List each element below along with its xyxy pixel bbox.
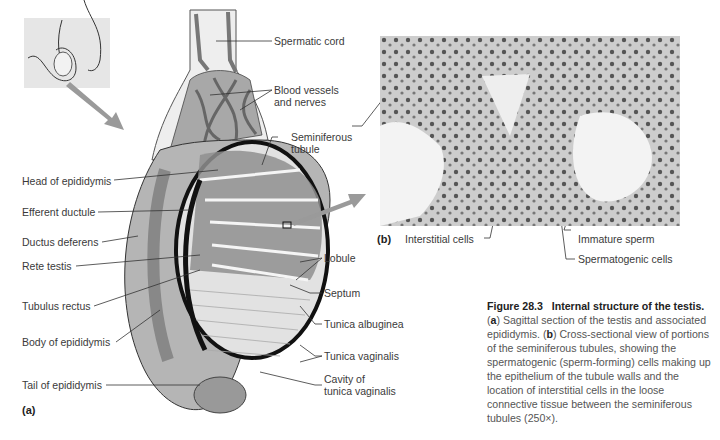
panel-b-tag: (b) (377, 233, 391, 245)
label-seminiferous: Seminiferous (291, 131, 352, 143)
figure-title: Internal structure of the testis. (552, 300, 704, 312)
figure-caption: Figure 28.3 Internal structure of the te… (487, 299, 712, 425)
caption-part-b: Cross-sectional view of portions of the … (487, 328, 711, 424)
label-rete-testis: Rete testis (22, 260, 72, 272)
label-body-of-epididymis: Body of epididymis (22, 336, 110, 348)
label-spermatogenic-cells: Spermatogenic cells (578, 253, 673, 265)
caption-part-b-tag: b (546, 328, 552, 340)
label-tubulus-rectus: Tubulus rectus (22, 300, 90, 312)
micrograph-seminiferous-tubules (380, 36, 680, 226)
label-tunica-vaginalis: Tunica vaginalis (324, 350, 399, 362)
figure-number: Figure 28.3 (487, 300, 543, 312)
panel-a-tag: (a) (22, 404, 35, 416)
pointer-arrow-icon (66, 82, 124, 130)
label-efferent-ductule: Efferent ductule (22, 206, 95, 218)
label-lobule: Lobule (324, 252, 356, 264)
label-interstitial-cells: Interstitial cells (405, 233, 474, 245)
label-immature-sperm: Immature sperm (578, 233, 654, 245)
caption-part-a-tag: a (491, 314, 497, 326)
label-tunica-albuginea: Tunica albuginea (324, 318, 404, 330)
label-tubule: tubule (291, 143, 320, 155)
label-tail-of-epididymis: Tail of epididymis (22, 379, 102, 391)
label-spermatic-cord: Spermatic cord (274, 35, 345, 47)
label-and-nerves: and nerves (274, 96, 326, 108)
label-blood-vessels: Blood vessels (274, 84, 339, 96)
label-septum: Septum (324, 287, 360, 299)
label-ductus-deferens: Ductus deferens (22, 236, 98, 248)
label-cavity-of: Cavity of (324, 373, 365, 385)
label-head-of-epididymis: Head of epididymis (22, 175, 111, 187)
label-tunica-vaginalis-cavity: tunica vaginalis (324, 385, 396, 397)
